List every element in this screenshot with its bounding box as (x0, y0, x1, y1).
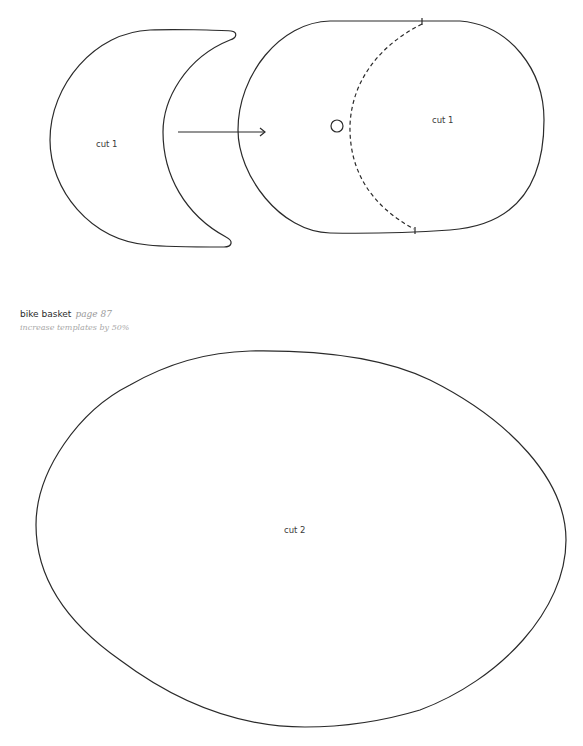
side-panel-cut-label: cut 1 (432, 115, 454, 125)
project-title: bike basket (20, 309, 71, 319)
template-drawing (0, 0, 583, 746)
base-cut-label: cut 2 (284, 525, 306, 535)
base-template-outline (36, 351, 566, 727)
scaling-note: increase templates by 50% (20, 321, 129, 334)
side-panel-template-outline (238, 21, 544, 233)
page-reference: page 87 (75, 309, 112, 319)
hole-marker-icon (331, 120, 343, 132)
project-caption: bike basket page 87 increase templates b… (20, 305, 129, 334)
crescent-cut-label: cut 1 (96, 139, 118, 149)
crescent-template-outline (50, 30, 236, 247)
fold-line-dashed (350, 24, 422, 229)
